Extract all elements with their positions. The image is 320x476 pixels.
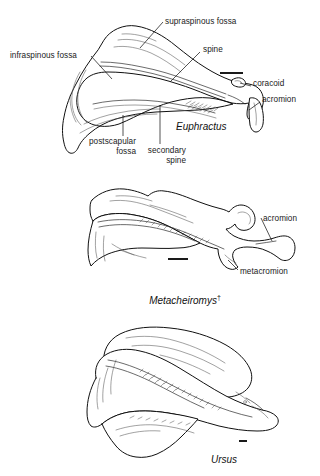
taxon-name-metacheiromys: Metacheiromys† [138, 283, 221, 317]
label-spine: spine [203, 45, 223, 55]
label-coracoid: coracoid [253, 79, 284, 89]
metacheiromys-infraspinous-texture-4 [120, 250, 146, 258]
label-secondary-spine: secondary spine [96, 146, 186, 165]
scale-bar-ursus [239, 440, 247, 442]
taxon-name-ursus: Ursus [211, 454, 237, 465]
scapula-comparative-figure: supraspinous fossa infraspinous fossa sp… [0, 0, 320, 476]
label-acromion: acromion [262, 95, 296, 105]
euphractus-scapula-outline [63, 26, 264, 154]
ursus-foramen [244, 401, 247, 404]
scale-bar-metacheiromys [168, 258, 188, 260]
euphractus-coracoid-process [231, 78, 245, 87]
label-metacheiromys-metacromion: metacromion [240, 267, 288, 277]
panel-ursus-drawing [87, 327, 278, 457]
panel-metacheiromys-drawing [88, 189, 295, 270]
label-metacheiromys-acromion: acromion [263, 214, 297, 224]
panel-euphractus-drawing [63, 22, 264, 153]
figure-canvas [0, 0, 320, 476]
label-infraspinous-fossa: infraspinous fossa [10, 51, 77, 61]
extinct-dagger-icon: † [217, 294, 221, 301]
taxon-name-metacheiromys-text: Metacheiromys [149, 295, 217, 306]
taxon-name-euphractus: Euphractus [176, 121, 227, 132]
scale-bar-euphractus [220, 72, 243, 74]
label-supraspinous-fossa: supraspinous fossa [165, 17, 236, 27]
